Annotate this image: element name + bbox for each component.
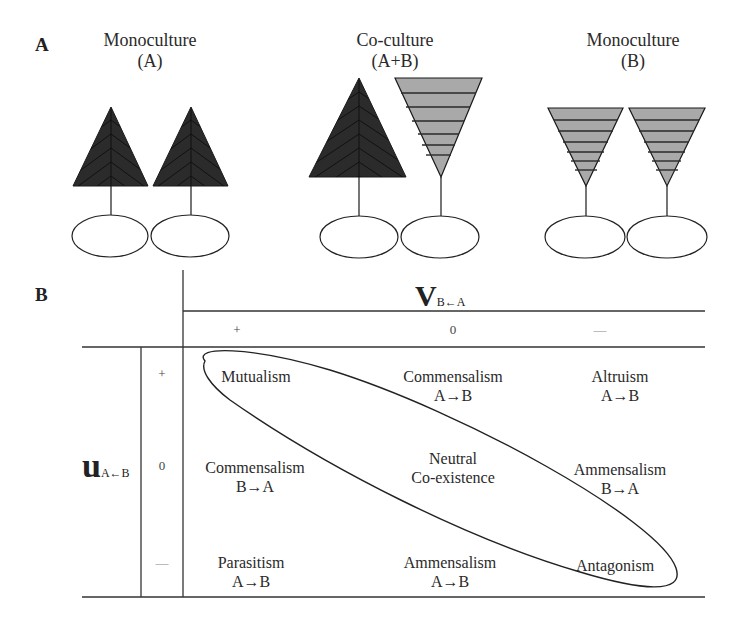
group-title-line2: (A) xyxy=(90,51,210,72)
cell-line1: Ammensalism xyxy=(555,460,685,479)
group-title-mono-a: Monoculture (A) xyxy=(90,30,210,72)
col-sign-plus: + xyxy=(222,322,252,338)
cell-ammensalism-b-a: Ammensalism B→A xyxy=(555,460,685,498)
cell-line1: Commensalism xyxy=(388,367,518,386)
cell-line2: A→B xyxy=(388,386,518,405)
cell-line2: Co-existence xyxy=(388,468,518,487)
cell-line1: Mutualism xyxy=(196,367,316,386)
row-sign-minus: — xyxy=(147,555,177,571)
cell-commensalism-a-b: Commensalism A→B xyxy=(388,367,518,405)
cell-line2: A→B xyxy=(565,386,675,405)
cell-line1: Antagonism xyxy=(560,556,670,575)
plant-b-coculture xyxy=(395,78,482,258)
group-title-mono-b: Monoculture (B) xyxy=(573,30,693,72)
group-title-coculture: Co-culture (A+B) xyxy=(335,30,455,72)
col-axis-subscript: B←A xyxy=(437,295,466,309)
row-axis-symbol: u xyxy=(82,447,101,484)
row-axis-label: uA←B xyxy=(82,449,130,483)
cell-line1: Parasitism xyxy=(196,553,306,572)
cell-antagonism: Antagonism xyxy=(560,556,670,575)
interaction-table-grid xyxy=(82,270,705,597)
cell-line1: Neutral xyxy=(388,449,518,468)
cell-altruism: Altruism A→B xyxy=(565,367,675,405)
panel-label-b: B xyxy=(35,284,48,306)
col-sign-minus: — xyxy=(585,322,615,338)
cell-ammensalism-a-b: Ammensalism A→B xyxy=(385,553,515,591)
plant-b-2 xyxy=(627,108,707,258)
diagram-canvas xyxy=(0,0,734,629)
group-title-line2: (A+B) xyxy=(335,51,455,72)
plant-a-1 xyxy=(70,107,152,257)
group-title-line1: Co-culture xyxy=(335,30,455,51)
cell-line1: Commensalism xyxy=(190,458,320,477)
cell-parasitism: Parasitism A→B xyxy=(196,553,306,591)
cell-line2: B→A xyxy=(555,479,685,498)
plant-b-1 xyxy=(545,108,625,258)
cell-line2: A→B xyxy=(385,572,515,591)
row-sign-plus: + xyxy=(147,366,177,382)
row-sign-zero: 0 xyxy=(147,458,177,474)
plant-a-coculture xyxy=(305,78,413,258)
cell-line2: A→B xyxy=(196,572,306,591)
cell-line1: Altruism xyxy=(565,367,675,386)
cell-line2: B→A xyxy=(190,477,320,496)
row-axis-subscript: A←B xyxy=(101,466,130,480)
cell-neutral-coexistence: Neutral Co-existence xyxy=(388,449,518,487)
col-axis-symbol: V xyxy=(415,279,437,312)
cell-line1: Ammensalism xyxy=(385,553,515,572)
col-axis-label: VB←A xyxy=(415,279,465,313)
cell-commensalism-b-a: Commensalism B→A xyxy=(190,458,320,496)
panel-label-a: A xyxy=(35,34,49,56)
group-title-line2: (B) xyxy=(573,51,693,72)
col-sign-zero: 0 xyxy=(438,322,468,338)
plant-a-2 xyxy=(150,107,232,257)
group-title-line1: Monoculture xyxy=(573,30,693,51)
group-title-line1: Monoculture xyxy=(90,30,210,51)
cell-mutualism: Mutualism xyxy=(196,367,316,386)
